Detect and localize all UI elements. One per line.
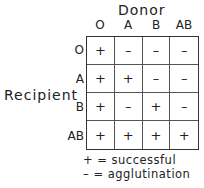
row-label-o: O bbox=[62, 43, 84, 57]
grid-cell: – bbox=[115, 37, 143, 65]
legend-successful: + = successful bbox=[83, 153, 176, 167]
grid-cell: – bbox=[115, 93, 143, 121]
grid-cell: + bbox=[115, 65, 143, 93]
donor-title: Donor bbox=[118, 2, 166, 18]
grid-cell: + bbox=[87, 93, 115, 121]
col-label-b: B bbox=[142, 18, 170, 32]
row-label-a: A bbox=[62, 72, 84, 86]
grid-cell: + bbox=[143, 121, 171, 149]
grid-cell: + bbox=[87, 121, 115, 149]
grid-cell: + bbox=[143, 93, 171, 121]
grid-cell: – bbox=[170, 65, 198, 93]
grid-cell: – bbox=[143, 37, 171, 65]
col-label-ab: AB bbox=[170, 18, 198, 32]
grid-cell: + bbox=[115, 121, 143, 149]
compatibility-grid: + – – – + + – – + – + – + + + + bbox=[86, 36, 199, 150]
grid-cell: + bbox=[87, 37, 115, 65]
grid-cell: + bbox=[170, 121, 198, 149]
legend-agglutination: – = agglutination bbox=[83, 167, 190, 181]
grid-cell: – bbox=[170, 37, 198, 65]
grid-cell: + bbox=[87, 65, 115, 93]
row-label-b: B bbox=[62, 100, 84, 114]
row-label-ab: AB bbox=[62, 129, 84, 143]
grid-cell: – bbox=[170, 93, 198, 121]
grid-cell: – bbox=[143, 65, 171, 93]
col-label-a: A bbox=[114, 18, 142, 32]
col-label-o: O bbox=[86, 18, 114, 32]
